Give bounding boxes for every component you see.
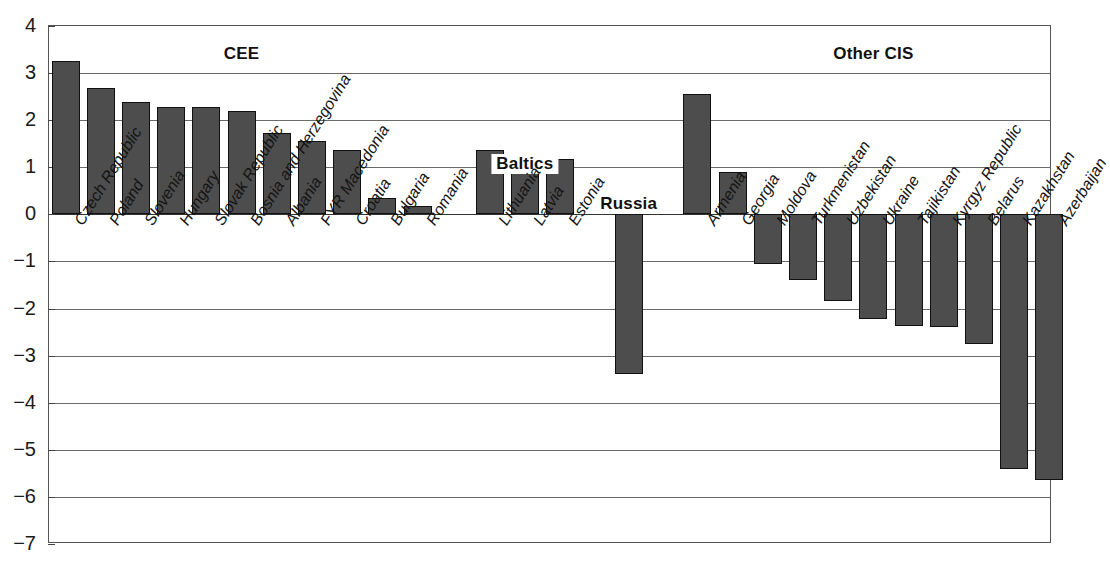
bar: [87, 88, 115, 214]
group-label-cee: CEE: [219, 44, 265, 64]
y-axis-tick-labels: 43210−1−2−3−4−5−6−7: [0, 0, 46, 568]
y-tick-label: 0: [25, 202, 36, 225]
y-tick-label: 2: [25, 108, 36, 131]
y-tick-label: −4: [13, 390, 36, 413]
bar: [615, 214, 643, 373]
bar: [754, 214, 782, 263]
bars: [49, 26, 1050, 542]
bar: [789, 214, 817, 280]
bar: [52, 61, 80, 214]
y-tick-label: −5: [13, 437, 36, 460]
bar: [298, 141, 326, 214]
y-tick-label: 1: [25, 155, 36, 178]
axis-tick: [48, 544, 55, 545]
bar: [228, 111, 256, 214]
y-tick-label: −2: [13, 296, 36, 319]
bar: [157, 107, 185, 214]
plot-area: CEEBalticsRussiaOther CIS: [48, 25, 1051, 543]
bar: [1035, 214, 1063, 480]
y-tick-label: −6: [13, 484, 36, 507]
group-label-baltics: Baltics: [491, 154, 558, 174]
bar: [192, 107, 220, 214]
bar: [895, 214, 923, 326]
chart-title: [120, 0, 620, 4]
bar: [824, 214, 852, 300]
group-label-russia: Russia: [595, 194, 662, 214]
group-label-other-cis: Other CIS: [828, 44, 918, 64]
bar: [1000, 214, 1028, 468]
y-tick-label: 3: [25, 61, 36, 84]
bar: [333, 150, 361, 215]
bar: [719, 172, 747, 214]
bar: [404, 206, 432, 214]
y-tick-label: −1: [13, 249, 36, 272]
bar: [683, 94, 711, 214]
bar: [263, 133, 291, 214]
bar: [859, 214, 887, 319]
bar: [930, 214, 958, 327]
y-tick-label: 4: [25, 14, 36, 37]
y-tick-label: −3: [13, 343, 36, 366]
bar: [368, 198, 396, 214]
bar: [965, 214, 993, 344]
y-tick-label: −7: [13, 532, 36, 555]
bar: [122, 102, 150, 214]
